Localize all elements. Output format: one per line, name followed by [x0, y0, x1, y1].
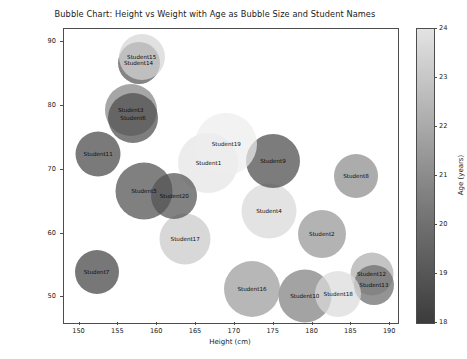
y-tick	[60, 296, 63, 297]
y-tick	[60, 41, 63, 42]
bubble-student20[interactable]	[151, 173, 197, 219]
bubble-student11[interactable]	[76, 132, 121, 177]
x-tick	[234, 322, 235, 325]
bubble-student4[interactable]	[242, 184, 297, 239]
colorbar-tick	[434, 273, 437, 274]
x-tick-label: 180	[305, 327, 318, 335]
x-tick-label: 150	[72, 327, 85, 335]
colorbar-tick	[434, 77, 437, 78]
x-tick	[312, 322, 313, 325]
colorbar-tick	[434, 28, 437, 29]
x-tick	[389, 322, 390, 325]
x-tick-label: 175	[266, 327, 279, 335]
x-tick	[117, 322, 118, 325]
y-tick-label: 80	[48, 101, 56, 109]
bubble-student15[interactable]	[119, 34, 165, 80]
y-tick-label: 70	[48, 165, 56, 173]
colorbar-tick	[434, 322, 437, 323]
x-tick-label: 165	[189, 327, 202, 335]
x-tick	[350, 322, 351, 325]
y-tick	[60, 233, 63, 234]
colorbar-tick-label: 22	[439, 122, 447, 130]
x-tick	[195, 322, 196, 325]
x-tick-label: 155	[111, 327, 124, 335]
x-tick	[156, 322, 157, 325]
bubble-chart-figure: Bubble Chart: Height vs Weight with Age …	[0, 0, 467, 359]
chart-title: Bubble Chart: Height vs Weight with Age …	[0, 9, 430, 19]
y-tick	[60, 105, 63, 106]
bubble-layer: Student1Student2Student3Student4Student5…	[64, 29, 398, 323]
y-tick	[60, 169, 63, 170]
colorbar-tick-label: 21	[439, 171, 447, 179]
plot-area: Student1Student2Student3Student4Student5…	[63, 28, 399, 324]
bubble-student6[interactable]	[108, 93, 158, 143]
colorbar-tick-label: 18	[439, 318, 447, 326]
y-tick-label: 50	[48, 292, 56, 300]
colorbar-gradient	[416, 28, 435, 324]
colorbar-label: Age (years)	[457, 155, 465, 196]
x-tick-label: 170	[228, 327, 241, 335]
bubble-student7[interactable]	[75, 250, 119, 294]
colorbar-tick-label: 23	[439, 73, 447, 81]
colorbar-tick-label: 20	[439, 220, 447, 228]
x-axis-label: Height (cm)	[63, 338, 397, 346]
colorbar-tick-label: 19	[439, 269, 447, 277]
x-tick	[79, 322, 80, 325]
x-tick-label: 185	[344, 327, 357, 335]
colorbar-tick-label: 24	[439, 24, 447, 32]
bubble-student19[interactable]	[195, 113, 257, 175]
y-tick-label: 60	[48, 229, 56, 237]
colorbar-tick	[434, 126, 437, 127]
bubble-student8[interactable]	[334, 154, 378, 198]
x-tick-label: 190	[383, 327, 396, 335]
x-tick-label: 160	[150, 327, 163, 335]
x-tick	[273, 322, 274, 325]
bubble-student2[interactable]	[298, 210, 346, 258]
y-tick-label: 90	[48, 37, 56, 45]
bubble-student16[interactable]	[224, 261, 280, 317]
colorbar-tick	[434, 224, 437, 225]
bubble-student17[interactable]	[160, 213, 211, 264]
bubble-student18[interactable]	[315, 271, 361, 317]
colorbar-tick	[434, 175, 437, 176]
